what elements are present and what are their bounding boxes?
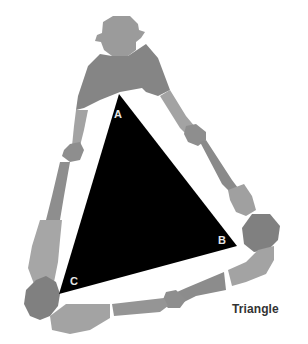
figure-caption: Triangle xyxy=(232,302,279,316)
person-left-shoulder xyxy=(28,220,62,284)
bottom-arms xyxy=(112,272,226,316)
person-right-head xyxy=(242,214,280,252)
vertex-label-c: C xyxy=(70,275,78,287)
person-right-shoulder xyxy=(228,184,256,216)
person-left-lower-arm xyxy=(50,304,110,334)
person-right xyxy=(200,140,280,286)
vertex-label-b: B xyxy=(218,234,226,246)
triangle xyxy=(59,94,237,294)
triangle-people-illustration: A B C xyxy=(0,0,308,344)
person-right-lower-arm xyxy=(228,246,274,286)
vertex-label-a: A xyxy=(114,108,122,120)
person-top-left-arm xyxy=(72,110,88,146)
person-right-upper-arm xyxy=(200,140,238,192)
person-top-left-hand xyxy=(62,142,84,162)
person-left-upper-arm xyxy=(46,162,70,220)
left-person-forearm xyxy=(112,298,168,316)
